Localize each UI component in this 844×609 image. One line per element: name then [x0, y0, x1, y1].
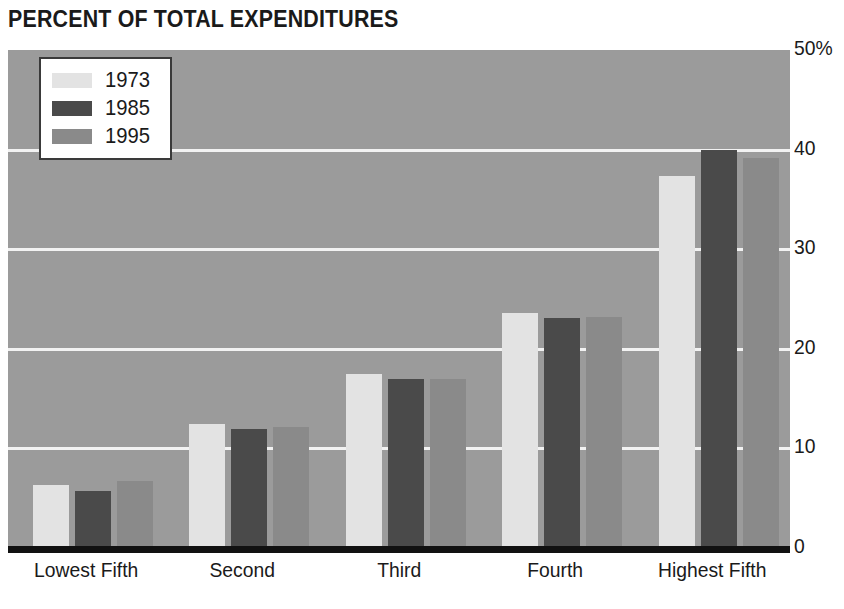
legend-item-1973[interactable]: 1973	[52, 66, 154, 94]
x-axis-label-5: Highest Fifth	[640, 558, 784, 582]
page-title: PERCENT OF TOTAL EXPENDITURES	[8, 4, 659, 36]
bar	[586, 317, 622, 548]
bar	[231, 429, 267, 548]
y-axis-label-20: 20	[794, 335, 840, 359]
legend-swatch-icon	[52, 101, 92, 116]
y-axis-label-50pct: 50%	[794, 36, 840, 60]
x-axis-label-1: Lowest Fifth	[14, 558, 158, 582]
x-axis-line	[8, 546, 790, 553]
bar	[189, 424, 225, 549]
y-axis-label-40: 40	[794, 136, 840, 160]
bar-group	[321, 50, 477, 548]
bar	[75, 491, 111, 548]
bar	[701, 150, 737, 548]
x-axis-label-4: Fourth	[483, 558, 627, 582]
bar-group	[477, 50, 633, 548]
legend-swatch-icon	[52, 73, 92, 88]
legend-item-1985[interactable]: 1985	[52, 94, 154, 122]
y-axis-label-0: 0	[794, 534, 840, 558]
bar	[659, 176, 695, 549]
legend-swatch-icon	[52, 129, 92, 144]
bar	[388, 379, 424, 548]
y-axis-label-30: 30	[794, 235, 840, 259]
bar-group	[634, 50, 790, 548]
legend-label: 1995	[105, 123, 150, 149]
y-axis-tick-labels: 01020304050%	[794, 0, 844, 609]
legend: 197319851995	[39, 57, 172, 160]
x-axis-label-2: Second	[171, 558, 315, 582]
legend-label: 1973	[105, 67, 150, 93]
bar	[117, 481, 153, 548]
bar	[430, 379, 466, 548]
bar	[544, 318, 580, 548]
bar	[346, 374, 382, 548]
legend-item-1995[interactable]: 1995	[52, 122, 154, 150]
x-axis-label-3: Third	[327, 558, 471, 582]
bar	[502, 313, 538, 548]
legend-label: 1985	[105, 95, 150, 121]
bar-group	[164, 50, 320, 548]
bar-chart: PERCENT OF TOTAL EXPENDITURES Lowest Fif…	[0, 0, 844, 609]
bar	[33, 485, 69, 548]
bar	[743, 158, 779, 548]
y-axis-label-10: 10	[794, 434, 840, 458]
bar	[273, 427, 309, 549]
x-axis-tick-labels: Lowest FifthSecondThirdFourthHighest Fif…	[8, 558, 790, 592]
